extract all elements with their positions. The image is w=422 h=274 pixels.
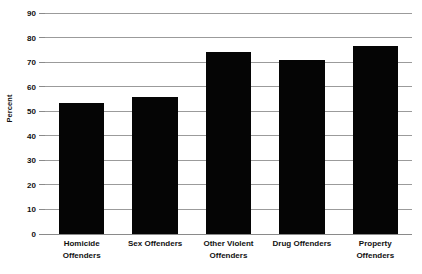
x-axis-label-line: Other Violent xyxy=(192,238,265,250)
x-axis-label-line: Sex Offenders xyxy=(118,238,191,250)
bar-homicide-offenders[interactable] xyxy=(59,103,105,234)
y-tick-label-0: 0 xyxy=(6,230,36,239)
bar-drug-offenders[interactable] xyxy=(279,60,325,234)
y-tick-label-30: 30 xyxy=(6,156,36,165)
x-axis-label-property-offenders: PropertyOffenders xyxy=(339,238,412,261)
x-axis-label-sex-offenders: Sex Offenders xyxy=(118,238,191,250)
x-axis-labels: HomicideOffendersSex OffendersOther Viol… xyxy=(45,238,412,274)
x-axis-label-line: Drug Offenders xyxy=(265,238,338,250)
x-axis-label-drug-offenders: Drug Offenders xyxy=(265,238,338,250)
plot-area: 0102030405060708090 xyxy=(45,13,412,234)
x-axis-label-line: Offenders xyxy=(45,250,118,262)
y-tick-label-70: 70 xyxy=(6,58,36,67)
x-axis-label-other-violent-offenders: Other ViolentOffenders xyxy=(192,238,265,261)
bars-layer xyxy=(45,13,412,234)
y-tick-label-40: 40 xyxy=(6,131,36,140)
y-tick-label-10: 10 xyxy=(6,205,36,214)
y-tick-label-80: 80 xyxy=(6,33,36,42)
x-axis-label-line: Offenders xyxy=(339,250,412,262)
x-axis-label-line: Offenders xyxy=(192,250,265,262)
bar-other-violent-offenders[interactable] xyxy=(206,52,252,234)
x-axis-label-line: Property xyxy=(339,238,412,250)
bar-chart: Percent 0102030405060708090 HomicideOffe… xyxy=(0,0,422,274)
y-tick-label-60: 60 xyxy=(6,82,36,91)
y-tick-label-90: 90 xyxy=(6,9,36,18)
bar-sex-offenders[interactable] xyxy=(132,97,178,235)
y-tick-label-50: 50 xyxy=(6,107,36,116)
x-axis-label-homicide-offenders: HomicideOffenders xyxy=(45,238,118,261)
x-axis-label-line: Homicide xyxy=(45,238,118,250)
y-tick-label-20: 20 xyxy=(6,180,36,189)
bar-property-offenders[interactable] xyxy=(353,46,399,234)
